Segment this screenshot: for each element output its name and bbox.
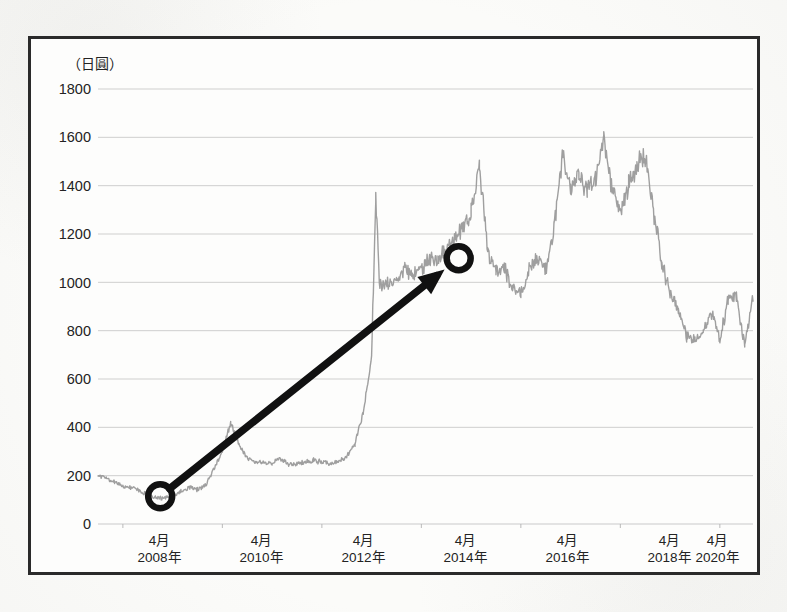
trend-arrow-shaft xyxy=(170,276,437,489)
scanned-page: （日圓） 1800 1600 1400 1200 1000 800 600 40… xyxy=(0,0,787,612)
gridlines xyxy=(98,89,753,524)
price-line-series xyxy=(98,132,753,500)
end-point-circle xyxy=(447,246,471,270)
stock-price-line-chart xyxy=(31,39,757,572)
hand-drawn-annotations xyxy=(148,246,470,508)
chart-figure-frame: （日圓） 1800 1600 1400 1200 1000 800 600 40… xyxy=(28,36,760,575)
